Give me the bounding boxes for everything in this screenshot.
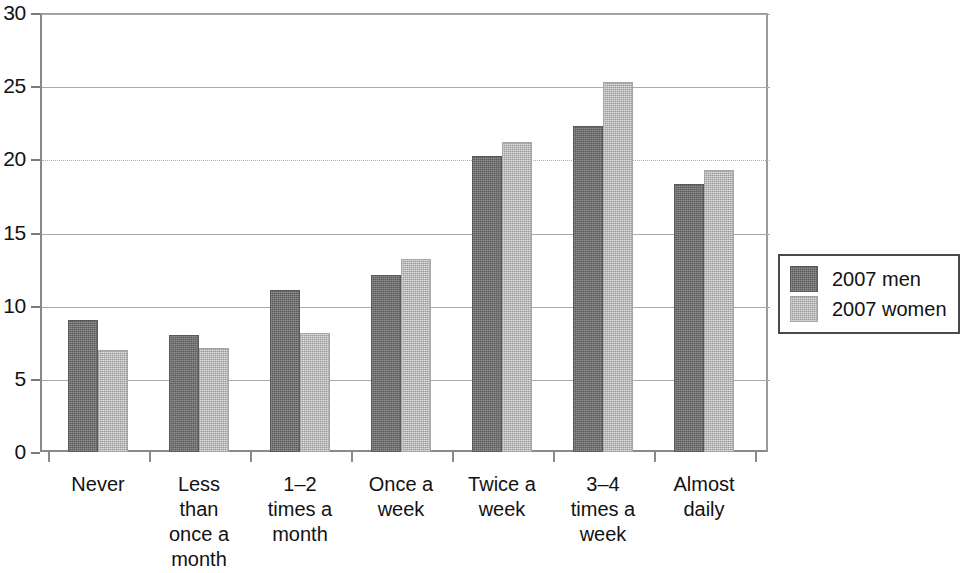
- y-tick-label: 15: [0, 222, 26, 243]
- legend-swatch-men: [790, 266, 818, 292]
- legend-label-women: 2007 women: [832, 298, 947, 320]
- legend-item-men: 2007 men: [790, 264, 958, 294]
- x-category-label-5: 3–4 times a week: [548, 472, 658, 547]
- bar-chart-figure: 051015202530 NeverLess than once a month…: [0, 0, 964, 573]
- y-tick-mark: [31, 452, 40, 454]
- x-tick-mark: [351, 452, 353, 462]
- x-tick-mark: [452, 452, 454, 462]
- x-tick-mark: [553, 452, 555, 462]
- legend-label-men: 2007 men: [832, 268, 921, 290]
- bar-men-5: [573, 126, 603, 452]
- y-tick-label: 20: [0, 148, 26, 169]
- x-category-label-1: Less than once a month: [144, 472, 254, 572]
- bar-men-3: [371, 275, 401, 452]
- bar-women-0: [98, 350, 128, 452]
- x-tick-mark: [654, 452, 656, 462]
- bar-men-0: [68, 320, 98, 452]
- bar-women-6: [704, 170, 734, 452]
- chart-legend: 2007 men 2007 women: [778, 254, 960, 334]
- gridline: [42, 87, 770, 88]
- x-tick-mark: [149, 452, 151, 462]
- y-tick-label: 5: [0, 368, 26, 389]
- x-tick-mark: [755, 452, 757, 462]
- x-tick-mark: [48, 452, 50, 462]
- bar-men-6: [674, 184, 704, 452]
- gridline-top: [42, 14, 770, 15]
- y-tick-mark: [31, 379, 40, 381]
- bar-men-2: [270, 290, 300, 452]
- x-category-label-3: Once a week: [346, 472, 456, 522]
- legend-swatch-women: [790, 296, 818, 322]
- bar-women-2: [300, 333, 330, 452]
- gridline: [42, 234, 770, 235]
- x-tick-mark: [250, 452, 252, 462]
- bar-men-4: [472, 156, 502, 452]
- y-tick-mark: [31, 306, 40, 308]
- x-category-label-4: Twice a week: [447, 472, 557, 522]
- y-tick-label: 30: [0, 2, 26, 23]
- gridline: [42, 160, 770, 161]
- bar-women-3: [401, 259, 431, 452]
- y-tick-label: 0: [0, 441, 26, 462]
- x-category-label-2: 1–2 times a month: [245, 472, 355, 547]
- y-tick-mark: [31, 13, 40, 15]
- x-category-label-6: Almost daily: [649, 472, 759, 522]
- y-tick-mark: [31, 86, 40, 88]
- y-tick-label: 10: [0, 295, 26, 316]
- y-tick-label: 25: [0, 75, 26, 96]
- bar-women-1: [199, 348, 229, 452]
- legend-item-women: 2007 women: [790, 294, 958, 324]
- bar-men-1: [169, 335, 199, 452]
- y-tick-mark: [31, 233, 40, 235]
- bar-women-4: [502, 142, 532, 452]
- bar-women-5: [603, 82, 633, 452]
- y-tick-mark: [31, 159, 40, 161]
- x-category-label-0: Never: [43, 472, 153, 497]
